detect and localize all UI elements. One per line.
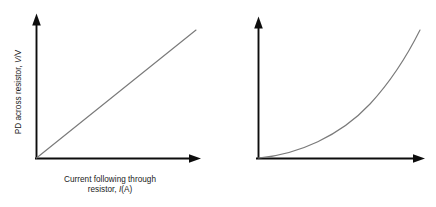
x-axis-arrow-icon [189,154,201,163]
y-axis-label-resistor: PD across resistor, V/V [14,22,24,162]
filament-lamp-data-curve [259,30,421,158]
x-axis-label-resistor-line2: resistor, [88,185,119,194]
chart-panel-filament-lamp: PD across filament lamp, V/V Current fol… [218,0,436,207]
resistor-data-line [37,30,197,158]
filament-lamp-chart-plot [218,0,436,207]
y-axis-label-resistor-text: PD across resistor, [14,63,23,134]
x-axis-label-resistor-line1: Current following through [64,175,156,184]
chart-panel-resistor: PD across resistor, V/V Current followin… [0,0,218,207]
x-axis-label-resistor: Current following throughresistor, I(A) [22,175,198,196]
y-axis-symbol-voltage: V [14,57,23,62]
x-axis-arrow-icon [413,154,425,163]
x-axis-label-resistor-unit: (A) [121,185,132,194]
iv-characteristics-figure: PD across resistor, V/V Current followin… [0,0,436,207]
y-axis-label-resistor-unit: /V [14,50,23,58]
y-axis-arrow-icon [32,14,41,26]
y-axis-arrow-icon [254,17,263,29]
